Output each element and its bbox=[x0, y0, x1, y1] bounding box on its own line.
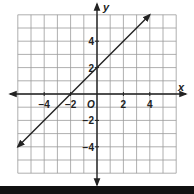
y-tick-label: −4 bbox=[83, 142, 95, 153]
y-axis-label: y bbox=[102, 1, 110, 13]
y-tick-label: 4 bbox=[88, 36, 94, 47]
origin-label: O bbox=[87, 99, 95, 110]
y-tick-label: −2 bbox=[83, 115, 95, 126]
x-tick-label: 4 bbox=[147, 99, 153, 110]
x-tick-label: −2 bbox=[65, 99, 77, 110]
x-tick-label: 2 bbox=[121, 99, 127, 110]
x-tick-label: −4 bbox=[38, 99, 50, 110]
bottom-bar bbox=[0, 186, 194, 194]
x-axis-label: x bbox=[177, 81, 185, 93]
coordinate-plane: −4−22442−2−4Oxy bbox=[0, 0, 194, 194]
